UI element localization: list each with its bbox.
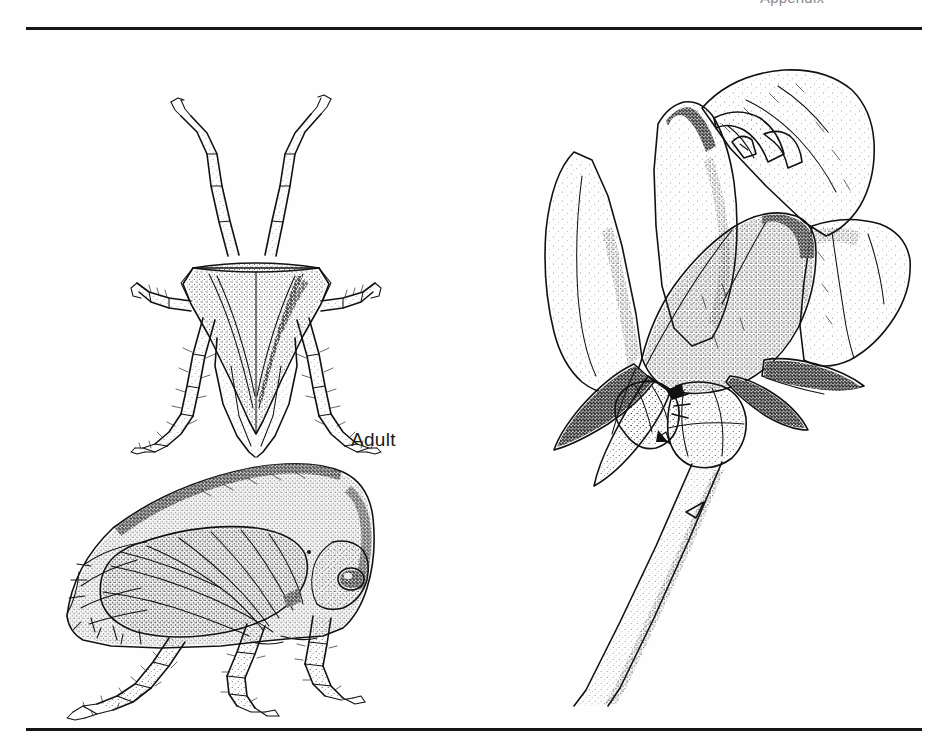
rose-stem [574,462,724,706]
hindleg-lateral [67,638,185,720]
hindleg-left [131,318,215,454]
caption-label-adult: Adult [351,429,396,451]
treehopper-adult-dorsal-view [131,36,381,436]
midleg-right [321,283,381,311]
foreleg-left [171,98,239,256]
running-head: Appendix [760,0,930,6]
illustration-plate: Adult [26,31,922,727]
midleg-left [131,283,191,311]
top-rule [26,27,922,30]
foreleg-right [265,95,331,256]
bottom-rule [26,728,922,731]
rose-petal-outer-left [545,152,642,393]
treehopper-adult-lateral-view [51,446,401,721]
rose-petal-right [800,219,910,366]
figure-page: Appendix [0,0,947,749]
rose-bud-with-treehopper [516,46,916,706]
